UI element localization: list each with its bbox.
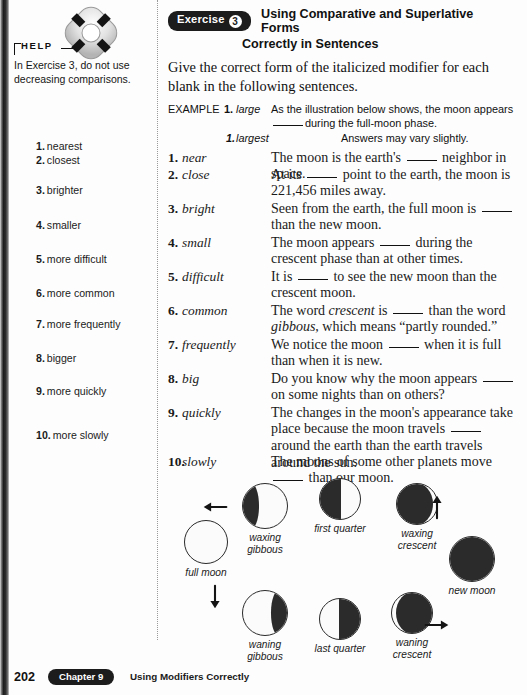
answer-item-9: 9.more quickly <box>14 385 154 397</box>
exercise-badge: Exercise3 <box>168 11 251 31</box>
answer-text: more difficult <box>47 253 107 265</box>
moon-shadow <box>242 483 259 529</box>
question-number: 5. <box>168 269 178 285</box>
example-answer-word: largest <box>236 131 269 145</box>
arrow-full-to-waxing-gibbous <box>199 491 230 522</box>
question-number: 3. <box>168 201 178 217</box>
moon-phase-label: new moon <box>440 585 504 597</box>
question-modifier: big <box>182 371 199 387</box>
question-modifier: bright <box>182 201 215 217</box>
moon-phase-last-quarter: last quarter <box>308 598 372 655</box>
question-number: 2. <box>168 167 178 183</box>
answer-blank[interactable] <box>380 245 410 246</box>
moon-shadow <box>339 598 361 640</box>
emphasized-word: crescent <box>329 303 375 318</box>
answer-number: 8. <box>36 352 45 364</box>
answer-item-10: 10.more slowly <box>14 429 154 441</box>
question-number: 6. <box>168 303 178 319</box>
answer-number: 4. <box>36 219 45 231</box>
exercise-column: Exercise3 Using Comparative and Superlat… <box>168 0 520 150</box>
answer-blank[interactable] <box>482 211 512 212</box>
moon-shadow <box>271 590 288 636</box>
moon-phase-label: full moon <box>174 567 238 579</box>
question-number: 8. <box>168 371 178 387</box>
answer-text: bigger <box>47 352 76 364</box>
question-modifier: difficult <box>182 269 224 285</box>
page-number: 202 <box>14 670 35 684</box>
example-modifier: large <box>236 102 260 116</box>
example-sentence: As the illustration below shows, the moo… <box>271 102 519 131</box>
example-blank <box>273 125 303 126</box>
moon-phase-label: last quarter <box>308 643 372 655</box>
question-sentence: We notice the moon when it is full than … <box>271 337 520 371</box>
question-number: 9. <box>168 405 178 421</box>
moon-disc <box>184 520 228 564</box>
answer-text: brighter <box>47 184 83 196</box>
question-modifier: quickly <box>182 405 221 421</box>
answer-text: smaller <box>47 219 81 231</box>
moon-phases-diagram: full moonwaxinggibbousfirst quarterwaxin… <box>168 478 523 668</box>
moon-phase-waning-gibbous: waninggibbous <box>233 590 297 663</box>
answer-item-1: 1.nearest <box>14 140 154 152</box>
moon-disc <box>319 598 361 640</box>
page-footer: 202 Chapter 9 Using Modifiers Correctly <box>14 668 434 688</box>
moon-phase-new-moon: new moon <box>440 536 504 597</box>
answer-item-8: 8.bigger <box>14 352 154 364</box>
answer-blank[interactable] <box>307 177 337 178</box>
answer-blank[interactable] <box>389 347 419 348</box>
exercise-title-line1: Using Comparative and Superlative Forms <box>261 7 493 36</box>
moon-phase-label: waningcrescent <box>380 637 444 661</box>
question-sentence: Seen from the earth, the full moon is th… <box>271 201 520 235</box>
question-modifier: near <box>182 150 207 166</box>
moon-phase-waxing-gibbous: waxinggibbous <box>233 483 297 556</box>
answer-blank[interactable] <box>393 313 423 314</box>
moon-disc <box>242 483 288 529</box>
question-sentence: The moon appears during the crescent pha… <box>271 235 520 269</box>
answer-number: 5. <box>36 253 45 265</box>
moon-disc <box>242 590 288 636</box>
question-sentence: It is to see the new moon than the cresc… <box>271 269 520 303</box>
moon-shadow <box>319 478 341 520</box>
question-number: 1. <box>168 150 178 166</box>
chapter-badge: Chapter 9 <box>48 669 114 685</box>
answer-item-4: 4.smaller <box>14 219 154 231</box>
moon-phase-label: waxinggibbous <box>233 532 297 556</box>
page-spine <box>0 0 9 695</box>
answer-text: nearest <box>47 140 82 152</box>
answer-blank[interactable] <box>451 431 481 432</box>
question-modifier: slowly <box>182 454 216 470</box>
question-modifier: frequently <box>182 337 236 353</box>
answer-number: 10. <box>36 429 51 441</box>
answer-number: 9. <box>36 385 45 397</box>
moon-disc <box>449 536 495 582</box>
example-sentence-part1: As the illustration below shows, the moo… <box>271 103 513 115</box>
question-sentence: At its point to the earth, the moon is 2… <box>271 167 520 201</box>
help-label: HELP <box>21 40 53 51</box>
answer-number: 7. <box>36 318 45 330</box>
question-number: 4. <box>168 235 178 251</box>
answer-blank[interactable] <box>483 381 513 382</box>
example-label: EXAMPLE <box>168 102 219 116</box>
exercise-header: Exercise3 Using Comparative and Superlat… <box>168 0 520 51</box>
answer-text: more slowly <box>53 429 109 441</box>
moon-disc <box>319 478 361 520</box>
answer-item-2: 2.closest <box>14 154 154 166</box>
answer-blank[interactable] <box>407 160 437 161</box>
answer-text: closest <box>47 154 80 166</box>
life-preserver-icon <box>60 2 122 64</box>
answer-blank[interactable] <box>298 279 328 280</box>
question-sentence: The word crescent is than the word gibbo… <box>271 303 520 337</box>
moon-phase-label: first quarter <box>308 523 372 535</box>
example-number: 1. <box>224 102 233 116</box>
emphasized-word: gibbous <box>271 319 315 334</box>
example-sentence-part2: during the full-moon phase. <box>305 117 437 129</box>
moon-phase-label: waninggibbous <box>233 639 297 663</box>
answer-text: more quickly <box>47 385 106 397</box>
column-divider <box>157 0 158 640</box>
question-sentence: Do you know why the moon appears on some… <box>271 371 520 405</box>
directions-text: Give the correct form of the italicized … <box>168 58 520 94</box>
answer-text: more frequently <box>47 318 121 330</box>
answer-number: 1. <box>36 140 45 152</box>
worksheet-page: HELP In Exercise 3, do not use decreasin… <box>0 0 527 695</box>
question-number: 7. <box>168 337 178 353</box>
